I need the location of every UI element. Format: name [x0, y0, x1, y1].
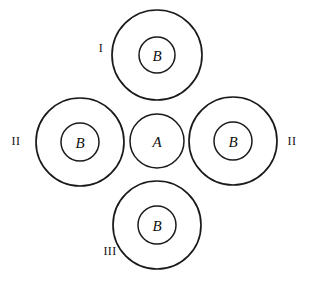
roman-numeral-i: I	[99, 41, 103, 55]
circle-packing-diagram: B I B II B II B III A	[0, 0, 310, 294]
roman-numeral-ii-right: II	[288, 134, 297, 148]
roman-numeral-ii-left: II	[12, 134, 21, 148]
ring-group-right[interactable]: B II	[189, 97, 296, 185]
roman-numeral-iii: III	[103, 244, 116, 258]
ring-group-left[interactable]: B II	[12, 98, 124, 186]
ring-right-label: B	[228, 134, 237, 150]
ring-top-label: B	[152, 48, 161, 64]
ring-group-bottom[interactable]: B III	[103, 181, 201, 269]
ring-group-top[interactable]: B I	[99, 10, 202, 100]
ring-left-label: B	[75, 135, 84, 151]
ring-bottom-label: B	[152, 218, 161, 234]
core-label: A	[151, 134, 162, 150]
figure-canvas: B I B II B II B III A	[0, 0, 310, 294]
core-group[interactable]: A	[130, 114, 184, 168]
